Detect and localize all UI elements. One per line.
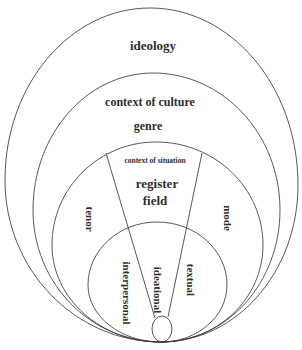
tenor-label: tenor bbox=[84, 206, 96, 231]
ideology-label: ideology bbox=[130, 38, 177, 53]
genre-label: genre bbox=[134, 119, 163, 133]
interpersonal-label: interpersonal bbox=[121, 262, 133, 325]
textual-label: textual bbox=[185, 264, 197, 296]
nested-context-diagram: ideology context of culture genre contex… bbox=[0, 0, 302, 350]
field-label: field bbox=[143, 193, 168, 208]
context-of-situation-label: context of situation bbox=[124, 156, 186, 165]
context-of-culture-label: context of culture bbox=[105, 95, 195, 109]
ideational-label: ideational bbox=[152, 267, 164, 313]
register-label: register bbox=[136, 176, 179, 191]
mode-label: mode bbox=[222, 205, 234, 231]
